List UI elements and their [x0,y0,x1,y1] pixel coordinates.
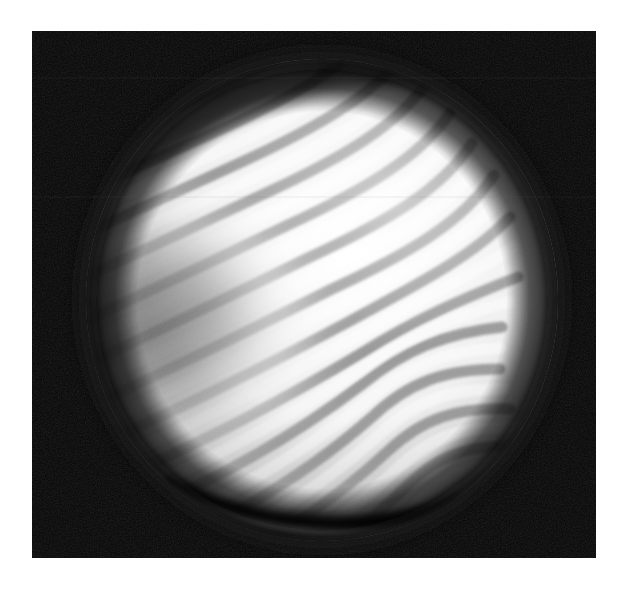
interferogram-canvas [32,31,596,558]
figure-root: Grayscale interferogram of a circular pu… [0,0,620,589]
interferogram-plate [32,31,596,558]
